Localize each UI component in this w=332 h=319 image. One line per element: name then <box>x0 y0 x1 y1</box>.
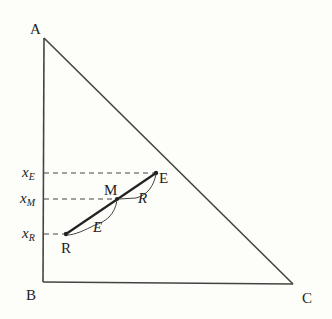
ternary-diagram: A B C E M R R E xE xM xR <box>0 0 332 319</box>
axis-label-xR: xR <box>21 225 35 243</box>
vertex-label-a: A <box>30 21 41 37</box>
lever-label-r: R <box>137 190 147 206</box>
side-bc <box>43 282 293 284</box>
point-label-m: M <box>104 182 117 198</box>
point-r-dot <box>64 232 68 236</box>
point-label-r: R <box>61 240 71 256</box>
svg-text:xR: xR <box>21 225 35 243</box>
svg-text:xM: xM <box>19 190 36 208</box>
side-ac <box>44 38 293 284</box>
vertex-label-b: B <box>26 287 36 303</box>
svg-text:xE: xE <box>21 164 35 182</box>
vertex-label-c: C <box>302 290 312 306</box>
lever-label-e: E <box>92 219 102 235</box>
triangle-abc <box>43 38 293 284</box>
axis-label-xM: xM <box>19 190 36 208</box>
point-label-e: E <box>159 170 168 186</box>
axis-label-xE: xE <box>21 164 35 182</box>
side-ab <box>43 38 44 282</box>
